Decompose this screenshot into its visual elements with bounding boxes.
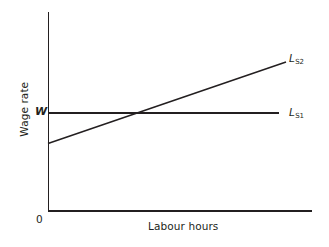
wage-rate-tick-label: W	[35, 106, 47, 117]
y-axis-label: Wage rate	[19, 69, 30, 149]
curve-label-ls1-subscript: S1	[295, 112, 304, 120]
labour-supply-chart: Wage rate Labour hours 0 W LS2 LS1	[0, 0, 329, 247]
curve-label-ls1-symbol: L	[289, 106, 295, 118]
chart-plot-area	[0, 0, 329, 247]
curve-ls2	[48, 62, 286, 144]
curve-label-ls2-subscript: S2	[295, 58, 304, 66]
x-axis-label: Labour hours	[148, 221, 218, 232]
curve-label-ls2: LS2	[289, 53, 304, 64]
origin-label: 0	[36, 214, 43, 225]
curve-label-ls1: LS1	[289, 107, 304, 118]
curve-label-ls2-symbol: L	[289, 52, 295, 64]
